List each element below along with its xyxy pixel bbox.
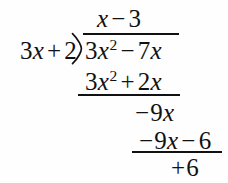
dividend-term2-coefficient: 7 xyxy=(138,37,151,64)
final-remainder-constant: 6 xyxy=(186,154,199,181)
subtraction-rule-one xyxy=(78,94,180,96)
subtrahend-two-expression: −9x−6 xyxy=(138,128,211,153)
subtraction-rule-two xyxy=(132,151,222,153)
final-remainder-expression: +6 xyxy=(170,155,199,180)
subtrahend-one-variable: x xyxy=(98,68,109,95)
partial-remainder-variable: x xyxy=(163,99,174,126)
subtrahend-two-coefficient: 9 xyxy=(154,127,167,154)
subtrahend-two-sign: − xyxy=(138,127,154,154)
subtrahend-one-expression: 3x2+2x xyxy=(85,69,162,94)
subtrahend-one-operator: + xyxy=(117,68,137,95)
subtrahend-two-operator: − xyxy=(178,127,198,154)
division-vinculum xyxy=(83,33,179,35)
partial-remainder-sign: − xyxy=(134,99,150,126)
partial-remainder-coefficient: 9 xyxy=(150,99,163,126)
divisor-variable: x xyxy=(33,37,44,64)
final-remainder-operator: + xyxy=(170,154,186,181)
divisor-operator: + xyxy=(44,37,64,64)
subtrahend-one-term2-variable: x xyxy=(150,68,161,95)
dividend-expression: 3x2−7x xyxy=(85,38,162,63)
divisor-coefficient: 3 xyxy=(20,37,33,64)
quotient-operator: − xyxy=(108,5,128,32)
subtrahend-one-coefficient: 3 xyxy=(85,68,98,95)
subtrahend-two-constant: 6 xyxy=(199,127,212,154)
quotient-expression: x−3 xyxy=(97,6,141,31)
quotient-term-2: 3 xyxy=(129,5,142,32)
polynomial-long-division-figure: x−3 3x+2 3x2−7x 3x2+2x −9x −9x−6 +6 xyxy=(0,0,228,183)
dividend-term2-variable: x xyxy=(150,37,161,64)
dividend-variable: x xyxy=(98,37,109,64)
dividend-operator: − xyxy=(117,37,137,64)
dividend-coefficient: 3 xyxy=(85,37,98,64)
divisor-expression: 3x+2 xyxy=(20,38,77,63)
partial-remainder-expression: −9x xyxy=(134,100,174,125)
subtrahend-one-term2-coefficient: 2 xyxy=(138,68,151,95)
quotient-term-1: x xyxy=(97,5,108,32)
subtrahend-two-variable: x xyxy=(167,127,178,154)
long-division-bracket-icon xyxy=(71,33,84,64)
